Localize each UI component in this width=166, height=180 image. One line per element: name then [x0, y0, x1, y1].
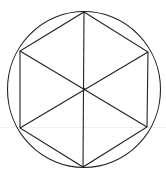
hexagon-in-circle-diagram [0, 0, 166, 180]
center-point [83, 88, 85, 90]
